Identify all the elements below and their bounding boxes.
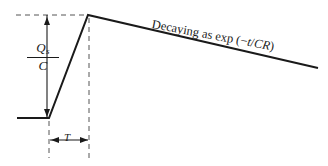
amplitude-denominator: C — [26, 58, 60, 72]
waveform-figure: Qs C T Decaying as exp (−t/CR) — [0, 0, 328, 166]
period-label: T — [64, 132, 70, 143]
amplitude-numerator: Qs — [26, 41, 60, 57]
amplitude-numerator-subscript: s — [46, 46, 50, 56]
amplitude-label: Qs C — [26, 41, 60, 72]
